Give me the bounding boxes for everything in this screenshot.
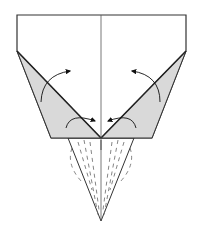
origami-diagram bbox=[0, 0, 199, 242]
diagram-canvas bbox=[0, 0, 199, 242]
paper-body bbox=[17, 15, 186, 138]
